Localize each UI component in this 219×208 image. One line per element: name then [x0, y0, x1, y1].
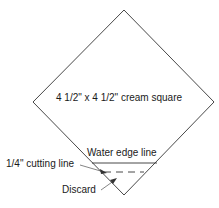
discard-label: Discard: [62, 184, 96, 195]
diagram-canvas: 4 1/2" x 4 1/2" cream square Water edge …: [0, 0, 219, 208]
cutting-line-arrowhead: [100, 169, 107, 174]
square-label: 4 1/2" x 4 1/2" cream square: [56, 92, 182, 103]
diagram-graphics: [0, 0, 219, 208]
cutting-line-label: 1/4" cutting line: [6, 158, 74, 169]
water-edge-label: Water edge line: [87, 147, 157, 158]
